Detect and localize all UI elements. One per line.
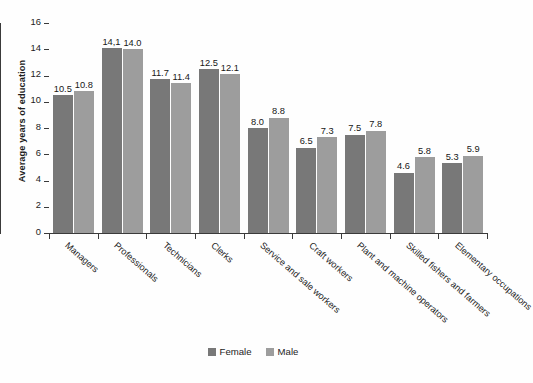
x-axis-label: Professionals <box>112 241 160 284</box>
bar-female[interactable]: 10.5 <box>53 95 73 233</box>
y-tick-label: 14 <box>31 43 41 52</box>
bar-value-label: 14,1 <box>102 38 120 47</box>
legend-item[interactable]: Female <box>208 347 252 357</box>
x-tick-mark <box>146 234 147 239</box>
y-tick-label: 12 <box>31 69 41 78</box>
chart-legend: FemaleMale <box>0 347 506 357</box>
legend-swatch-icon <box>208 348 216 356</box>
x-axis-label: Managers <box>63 241 100 275</box>
bar-female[interactable]: 4.6 <box>394 173 414 233</box>
bar-group: 7.57.8 <box>345 23 386 233</box>
bar-male[interactable]: 14.0 <box>123 49 143 233</box>
bar-value-label: 11.4 <box>172 73 189 82</box>
x-tick-mark <box>98 234 99 239</box>
legend-item[interactable]: Male <box>266 347 299 357</box>
y-axis-title: Average years of education <box>17 31 27 211</box>
y-tick-label: 4 <box>36 174 41 183</box>
x-axis-label: Craft workers <box>307 241 354 284</box>
x-tick-mark <box>487 234 488 239</box>
bar-male[interactable]: 7.8 <box>366 131 386 233</box>
x-axis-label: Skilled fishers and farmers <box>404 241 492 319</box>
x-axis-label: Service and sale workers <box>258 241 342 315</box>
bar-female[interactable]: 14,1 <box>102 48 122 233</box>
bar-group: 8.08.8 <box>248 23 289 233</box>
y-axis-line <box>0 23 1 234</box>
y-tick-label: 2 <box>36 200 41 209</box>
bar-male[interactable]: 8.8 <box>269 118 289 234</box>
x-axis-line <box>49 233 488 234</box>
x-tick-mark <box>438 234 439 239</box>
y-tick-label: 6 <box>36 148 41 157</box>
bar-value-label: 5.3 <box>446 153 459 162</box>
bar-value-label: 12.1 <box>221 64 239 73</box>
bar-value-label: 12.5 <box>200 59 218 68</box>
bar-value-label: 7.3 <box>321 127 334 136</box>
y-tick-label: 8 <box>36 122 41 131</box>
bar-group: 10.510.8 <box>53 23 94 233</box>
bar-group: 5.35.9 <box>442 23 483 233</box>
x-tick-mark <box>390 234 391 239</box>
bar-group: 6.57.3 <box>296 23 337 233</box>
legend-label: Female <box>220 347 252 357</box>
bar-value-label: 10.8 <box>75 81 93 90</box>
bar-group: 12.512.1 <box>199 23 240 233</box>
x-tick-mark <box>292 234 293 239</box>
bar-female[interactable]: 11.7 <box>150 79 170 233</box>
bar-value-label: 7.5 <box>348 124 361 133</box>
bar-female[interactable]: 7.5 <box>345 135 365 233</box>
bar-male[interactable]: 7.3 <box>317 137 337 233</box>
x-tick-mark <box>341 234 342 239</box>
bar-value-label: 5.8 <box>418 147 431 156</box>
bar-male[interactable]: 11.4 <box>171 83 191 233</box>
bar-female[interactable]: 6.5 <box>296 148 316 233</box>
bar-female[interactable]: 8.0 <box>248 128 268 233</box>
plot-area: 10.510.814,114.011.711.412.512.18.08.86.… <box>49 23 487 233</box>
legend-swatch-icon <box>266 348 274 356</box>
legend-label: Male <box>278 347 299 357</box>
x-tick-mark <box>195 234 196 239</box>
bar-male[interactable]: 5.8 <box>415 157 435 233</box>
bar-group: 11.711.4 <box>150 23 191 233</box>
bar-value-label: 7.8 <box>369 120 382 129</box>
bar-value-label: 6.5 <box>300 137 313 146</box>
x-axis-label: Clerks <box>209 241 235 265</box>
bar-group: 4.65.8 <box>394 23 435 233</box>
bar-male[interactable]: 5.9 <box>463 156 483 233</box>
y-tick-label: 16 <box>31 17 41 26</box>
bar-value-label: 14.0 <box>123 39 141 48</box>
bar-value-label: 4.6 <box>397 162 410 171</box>
bar-group: 14,114.0 <box>102 23 143 233</box>
y-tick-label: 0 <box>36 227 41 236</box>
x-axis-label: Plant and machine operators <box>355 241 450 325</box>
bar-male[interactable]: 10.8 <box>74 91 94 233</box>
x-tick-mark <box>244 234 245 239</box>
bar-value-label: 8.8 <box>272 107 285 116</box>
bar-female[interactable]: 12.5 <box>199 69 219 233</box>
bar-value-label: 5.9 <box>467 145 480 154</box>
x-tick-mark <box>49 234 50 239</box>
bar-female[interactable]: 5.3 <box>442 163 462 233</box>
bar-value-label: 10.5 <box>54 85 72 94</box>
x-axis-label: Technicians <box>161 241 203 279</box>
bar-male[interactable]: 12.1 <box>220 74 240 233</box>
bar-value-label: 8.0 <box>251 118 264 127</box>
y-tick-label: 10 <box>31 95 41 104</box>
bar-value-label: 11.7 <box>151 69 168 78</box>
